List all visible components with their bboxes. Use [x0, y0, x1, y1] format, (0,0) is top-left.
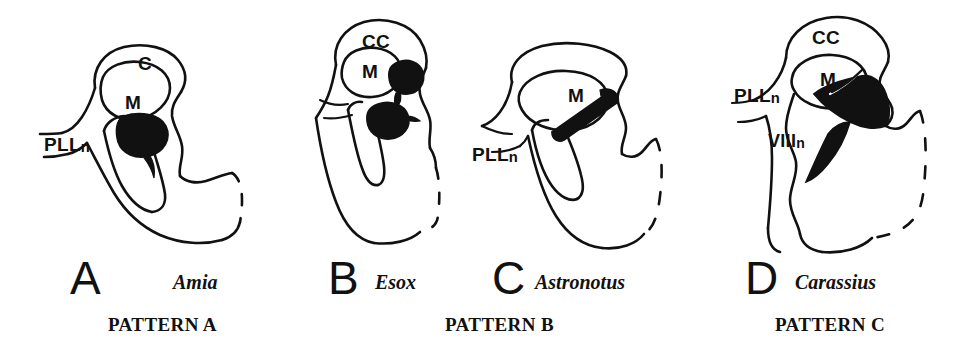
label-c-panel-a: C: [138, 54, 152, 73]
label-plln-panel-c: PLLn: [472, 145, 518, 164]
label-plln-panel-a: PLLn: [44, 135, 90, 154]
nucleus-filled-region-b-upper: [389, 60, 424, 94]
label-plln-panel-d: PLLn: [734, 86, 780, 105]
label-cc-panel-d: CC: [812, 28, 840, 47]
label-cc-panel-b: CC: [362, 32, 390, 51]
panel-c: M PLLn C Astronotus: [460, 0, 690, 363]
figure-canvas: C M PLLn A Amia PATTERN A: [0, 0, 956, 363]
label-m-panel-a: M: [125, 93, 141, 112]
panel-letter-a: A: [70, 255, 101, 301]
genus-name-b: Esox: [375, 272, 416, 292]
panel-b: CC M B Esox PATTERN B: [300, 0, 480, 363]
panel-b-drawing: [300, 0, 480, 363]
pattern-caption-d: PATTERN C: [775, 315, 885, 334]
nucleus-taper-d: [806, 122, 850, 182]
nucleus-bar-head-c: [600, 89, 618, 97]
cut-edge-dashed-d: [872, 111, 926, 238]
panel-d-drawing: [690, 0, 956, 363]
panel-c-drawing: [460, 0, 690, 363]
cut-edge-dashed-c: [644, 139, 662, 234]
label-m-panel-d: M: [820, 70, 836, 89]
panel-letter-c: C: [492, 255, 525, 301]
genus-name-a: Amia: [173, 272, 217, 292]
label-m-panel-b: M: [362, 62, 378, 81]
genus-name-c: Astronotus: [535, 272, 625, 292]
nucleus-tail-a: [144, 156, 154, 178]
label-viiin-panel-d: VIIIn: [768, 132, 805, 150]
label-m-panel-c: M: [568, 86, 584, 105]
cut-edge-dashed-a: [232, 173, 242, 222]
panel-a: C M PLLn A Amia PATTERN A: [0, 0, 300, 363]
pattern-caption-a: PATTERN A: [108, 315, 217, 334]
nucleus-filled-region-b-lower: [367, 102, 409, 139]
nucleus-filled-region-a: [116, 114, 168, 158]
panel-d: CC M PLLn VIIIn D Carassius PATTERN C: [690, 0, 956, 363]
nucleus-tail-b: [405, 116, 420, 121]
genus-name-d: Carassius: [795, 272, 876, 292]
panel-letter-d: D: [745, 255, 778, 301]
panel-letter-b: B: [328, 255, 359, 301]
nucleus-filled-bar-c: [552, 93, 618, 141]
cut-edge-dashed-b: [420, 168, 439, 232]
